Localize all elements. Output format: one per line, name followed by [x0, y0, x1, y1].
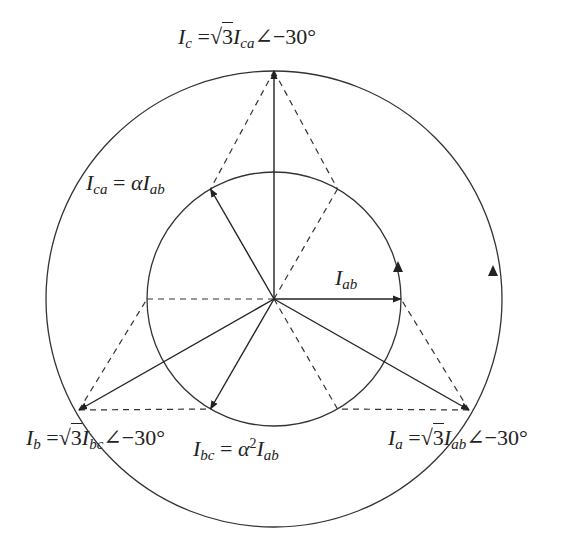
phasor-diagram: [0, 0, 571, 554]
phasor-ica: [211, 189, 275, 299]
phasor-ibc: [211, 299, 275, 409]
phasor-ia: [274, 299, 469, 410]
label-iab: Iab: [335, 267, 357, 292]
phasor-ib: [79, 299, 274, 410]
label-ica: Ica = αIab: [86, 172, 165, 197]
label-ic: Ic =√3Ica∠−30°: [178, 26, 316, 51]
inner-rotation-arrow-icon: [393, 261, 403, 272]
label-ib: Ib =√3Ibc∠−30°: [26, 427, 165, 452]
outer-rotation-arrow-icon: [488, 265, 498, 276]
label-ibc: Ibc = α2Iab: [193, 437, 279, 463]
label-ia: Ia =√3Iab∠−30°: [388, 427, 528, 452]
